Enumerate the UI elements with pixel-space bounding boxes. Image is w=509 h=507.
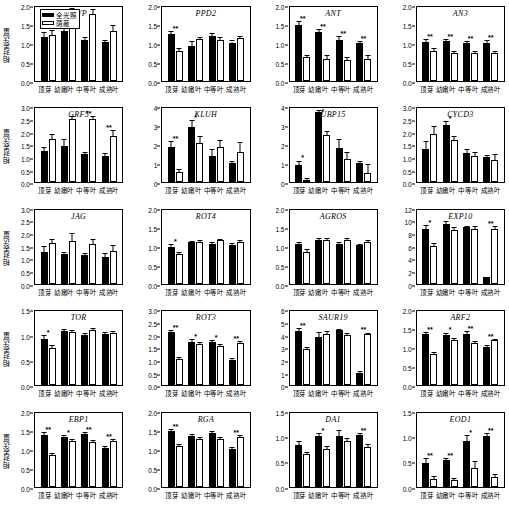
bar-shade (69, 441, 76, 487)
y-tick-mark (157, 184, 160, 185)
significance-marker: ** (45, 426, 50, 433)
error-bar-cap (210, 149, 215, 150)
y-tick-mark (30, 26, 33, 27)
bar-group: ** (483, 7, 498, 81)
bar-full-light (188, 242, 195, 283)
significance-marker: ** (173, 135, 178, 142)
y-tick-mark (30, 159, 33, 160)
error-bar-cap (210, 33, 215, 34)
bar-slot (89, 108, 96, 182)
y-tick-mark (30, 45, 33, 46)
x-tick-label: 成熟叶 (99, 185, 119, 195)
bar-slot (168, 7, 175, 81)
bar-group: * (188, 108, 203, 182)
error-bar-cap (345, 152, 350, 153)
error-bar-cap (82, 37, 87, 38)
y-tick-mark (412, 45, 415, 46)
x-axis-labels: 顶芽幼嫩叶中等叶成熟叶 (289, 185, 378, 195)
bar-full-light (61, 31, 68, 81)
bar-slot (336, 108, 343, 182)
y-tick-mark (412, 330, 415, 331)
y-tick-label: 0.5 (148, 263, 157, 270)
y-tick-mark (30, 235, 33, 236)
error-bar-cap (218, 437, 223, 438)
bar-shade (344, 159, 351, 183)
bar-full-light (315, 240, 322, 284)
y-tick-label: 2.5 (403, 118, 412, 125)
bar-shade (471, 229, 478, 284)
y-tick-mark (412, 235, 415, 236)
y-tick-label: 1.5 (403, 409, 412, 416)
error-bar-cap (90, 328, 95, 329)
significance-marker: ** (361, 326, 366, 333)
bar-shade (176, 359, 183, 386)
bar-full-light (483, 157, 490, 182)
error-bar-cap (431, 243, 436, 244)
bar-slot (451, 413, 458, 487)
chart-panel: 0.00.51.01.5EOD1*******顶芽幼嫩叶中等叶成熟叶 (382, 406, 509, 507)
y-tick-mark (30, 222, 33, 223)
x-tick-label: 顶芽 (420, 388, 433, 398)
bar-slot (229, 311, 236, 385)
error-bar-cap (103, 40, 108, 41)
bar-slot (217, 108, 224, 182)
y-tick-label: 0.0 (148, 384, 157, 391)
bar-full-light (168, 431, 175, 486)
significance-marker: * (322, 427, 325, 434)
bar-group: * (422, 210, 437, 284)
y-tick-mark (285, 146, 288, 147)
error-bar-cap (82, 253, 87, 254)
x-axis-labels: 顶芽幼嫩叶中等叶成熟叶 (34, 185, 123, 195)
panel-grid: 相对表达量0.00.51.01.52.0SWP顶芽幼嫩叶中等叶成熟叶全光照荫蔽0… (0, 0, 509, 507)
x-tick-label: 成熟叶 (481, 388, 501, 398)
bar-group: ** (483, 210, 498, 284)
bar-shade (430, 354, 437, 386)
chart-panel: 0.00.51.01.52.0ROT4*顶芽幼嫩叶中等叶成熟叶 (127, 203, 254, 304)
error-bar-cap (304, 347, 309, 348)
bar-group: ** (443, 413, 458, 487)
y-axis-ticks: 0.00.51.01.52.0 (130, 7, 160, 81)
bar-group: ** (315, 7, 330, 81)
y-tick-mark (285, 7, 288, 8)
bar-group: ** (102, 108, 117, 182)
error-bar-cap (304, 178, 309, 179)
error-bar-cap (492, 474, 497, 475)
bar-slot (188, 413, 195, 487)
bar-series-container: *** (417, 210, 504, 284)
bar-group (336, 311, 351, 385)
bar-group: * (315, 413, 330, 487)
y-tick-label: 0.0 (403, 384, 412, 391)
x-tick-label: 顶芽 (38, 84, 51, 94)
error-bar-cap (238, 142, 243, 143)
bar-group (102, 210, 117, 284)
bar-slot (110, 311, 117, 385)
x-axis-labels: 顶芽幼嫩叶中等叶成熟叶 (289, 287, 378, 297)
bar-slot (110, 413, 117, 487)
y-tick-label: 2.0 (275, 206, 284, 213)
bar-full-light (41, 339, 48, 386)
bar-shade (217, 40, 224, 81)
bar-full-light (295, 445, 302, 487)
bar-shade (471, 53, 478, 81)
x-tick-label: 成熟叶 (226, 84, 246, 94)
x-axis-labels: 顶芽幼嫩叶中等叶成熟叶 (416, 287, 505, 297)
plot-area: 0.00.51.01.52.02.53.0GRF5**** (34, 107, 123, 183)
y-tick-label: 1.5 (21, 308, 30, 315)
error-bar-cap (472, 461, 477, 462)
bar-full-light (356, 373, 363, 386)
bar-full-light (463, 43, 470, 81)
x-tick-label: 幼嫩叶 (436, 388, 456, 398)
y-tick-mark (30, 285, 33, 286)
error-bar-cap (189, 434, 194, 435)
x-tick-label: 顶芽 (165, 185, 178, 195)
y-tick-mark (412, 247, 415, 248)
bar-slot (364, 210, 371, 284)
bar-slot (422, 7, 429, 81)
significance-marker: ** (300, 322, 305, 329)
bar-slot (188, 7, 195, 81)
x-tick-label: 成熟叶 (226, 490, 246, 500)
axis-frame: 024681012EXP10*** (416, 209, 505, 285)
bar-group (81, 7, 96, 81)
bar-shade (303, 454, 310, 486)
bar-shade (471, 343, 478, 386)
